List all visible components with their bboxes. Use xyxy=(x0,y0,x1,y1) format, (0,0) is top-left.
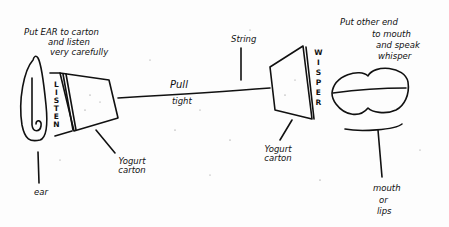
pull-label: Pull xyxy=(170,80,188,90)
right-cup-drawing xyxy=(270,46,314,119)
mouth-pointer xyxy=(378,130,382,177)
listen-text: LISTEN xyxy=(52,80,60,128)
right-carton-label: Yogurt carton xyxy=(258,145,298,162)
mouth-label-line2: or xyxy=(379,196,388,205)
mouth-instruction-line2: to mouth xyxy=(372,30,411,39)
mouth-instruction-line1: Put other end xyxy=(340,18,398,27)
whisper-vertical-label: WISPER xyxy=(314,48,322,108)
ear-drawing xyxy=(21,56,47,140)
right-carton-pointer xyxy=(280,120,292,140)
string-label: String xyxy=(231,35,256,44)
ear-pointer xyxy=(38,152,39,183)
mouth-instruction-line3: and speak xyxy=(376,41,420,50)
ear-instruction-line1: Put EAR to carton xyxy=(24,28,99,37)
left-carton-label: Yogurt carton xyxy=(112,157,152,174)
mouth-instruction-line4: whisper xyxy=(378,52,411,61)
tight-label: tight xyxy=(172,97,192,106)
listen-vertical-label: LISTEN xyxy=(52,80,60,128)
left-carton-pointer xyxy=(96,130,115,153)
string-drawing xyxy=(118,88,270,98)
mouth-label-line1: mouth xyxy=(373,184,401,193)
ear-instruction-line3: very carefully xyxy=(50,48,108,57)
lips-drawing xyxy=(332,68,408,130)
whisper-text: WISPER xyxy=(314,48,322,108)
ear-label: ear xyxy=(34,188,48,197)
string-telephone-diagram: Put EAR to carton and listen very carefu… xyxy=(0,0,449,227)
ear-instruction-line2: and listen xyxy=(48,38,90,47)
mouth-label-line3: lips xyxy=(377,207,392,216)
